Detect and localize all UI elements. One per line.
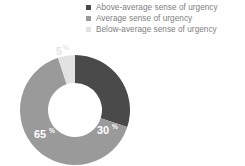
slice-unit-above-average: %	[112, 123, 118, 130]
legend-label-below-average: Below-average sense of urgency	[96, 24, 217, 35]
donut-chart-figure: Above-average sense of urgency Average s…	[0, 0, 245, 166]
legend-label-average: Average sense of urgency	[96, 13, 192, 24]
legend-swatch-icon-below-average	[86, 27, 91, 32]
slice-value-label-below-average: 5 %	[56, 44, 69, 57]
slice-unit-below-average: %	[63, 44, 69, 51]
legend-label-above-average: Above-average sense of urgency	[96, 2, 218, 13]
slice-value-below-average: 5	[56, 45, 62, 57]
donut-chart-svg: 30 % 65 % 5 %	[0, 38, 150, 166]
chart-legend: Above-average sense of urgency Average s…	[86, 2, 244, 35]
legend-item-above-average[interactable]: Above-average sense of urgency	[86, 2, 244, 13]
slice-value-average: 65	[34, 128, 46, 140]
donut-slice-above-average[interactable]	[75, 55, 130, 127]
slice-value-above-average: 30	[97, 124, 109, 136]
legend-swatch-icon-above-average	[86, 5, 91, 10]
legend-swatch-icon-average	[86, 16, 91, 21]
legend-item-average[interactable]: Average sense of urgency	[86, 13, 244, 24]
donut-slices	[20, 55, 130, 165]
donut-chart-area: 30 % 65 % 5 %	[0, 38, 150, 166]
slice-unit-average: %	[49, 127, 55, 134]
legend-item-below-average[interactable]: Below-average sense of urgency	[86, 24, 244, 35]
